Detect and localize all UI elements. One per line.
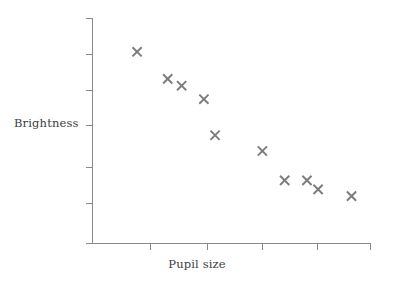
- data-point-marker: [199, 95, 208, 104]
- y-axis-ticks: [86, 19, 93, 244]
- scatter-plot-figure: Brightness Pupil size: [0, 0, 394, 288]
- data-point-marker: [258, 146, 267, 155]
- data-point-marker: [210, 131, 219, 140]
- data-marker-group: [132, 47, 356, 201]
- data-point-marker: [177, 81, 186, 90]
- y-axis-label: Brightness: [14, 118, 79, 130]
- data-point-marker: [132, 47, 141, 56]
- plot-canvas: [0, 0, 394, 288]
- data-point-marker: [163, 74, 172, 83]
- x-axis-ticks: [151, 244, 371, 251]
- data-point-marker: [280, 176, 289, 185]
- data-point-marker: [313, 185, 322, 194]
- x-axis-label: Pupil size: [0, 259, 394, 271]
- data-point-marker: [302, 176, 311, 185]
- data-point-marker: [347, 192, 356, 201]
